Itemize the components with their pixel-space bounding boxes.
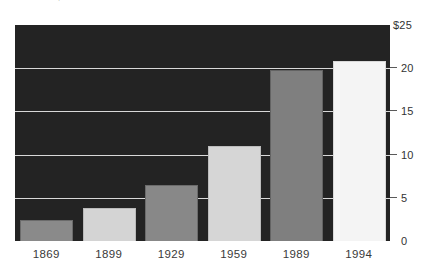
y-tick-mark [390,67,397,68]
y-tick-label: 5 [401,192,407,204]
bar-1869[interactable] [20,220,73,241]
bar-1989[interactable] [270,70,323,241]
y-tick-label: 15 [401,105,414,117]
y-tick-mark [390,110,397,111]
y-tick-label: 10 [401,149,414,161]
x-tick-label-1929: 1929 [140,246,203,262]
x-axis: 186918991929195919891994 [15,246,390,264]
bar-chart-figure: Measured in $ trillions 05101520$25 1869… [0,0,427,275]
bar-slot [140,25,203,241]
bar-slot [78,25,141,241]
y-tick-25: $25 [390,19,427,31]
bar-1899[interactable] [83,208,136,241]
y-tick-mark [390,197,397,198]
x-tick-label-1959: 1959 [203,246,266,262]
bar-slot [203,25,266,241]
bar-slot [265,25,328,241]
y-tick-0: 0 [390,235,427,247]
bars-layer [15,25,390,241]
bar-1994[interactable] [333,61,386,241]
y-tick-label: 0 [401,235,407,247]
y-tick-10: 10 [390,149,427,161]
y-tick-label: $25 [393,19,412,31]
x-tick-label-1994: 1994 [328,246,391,262]
y-axis: 05101520$25 [390,0,427,260]
x-tick-label-1989: 1989 [265,246,328,262]
y-tick-label: 20 [401,62,414,74]
plot-area [15,25,390,241]
bar-slot [328,25,391,241]
bar-slot [15,25,78,241]
y-tick-20: 20 [390,62,427,74]
x-tick-label-1899: 1899 [78,246,141,262]
chart-caption: Measured in $ trillions [8,0,208,2]
y-tick-5: 5 [390,192,427,204]
x-tick-label-1869: 1869 [15,246,78,262]
bar-1959[interactable] [208,146,261,241]
bar-1929[interactable] [145,185,198,241]
y-tick-15: 15 [390,105,427,117]
y-tick-mark [390,154,397,155]
